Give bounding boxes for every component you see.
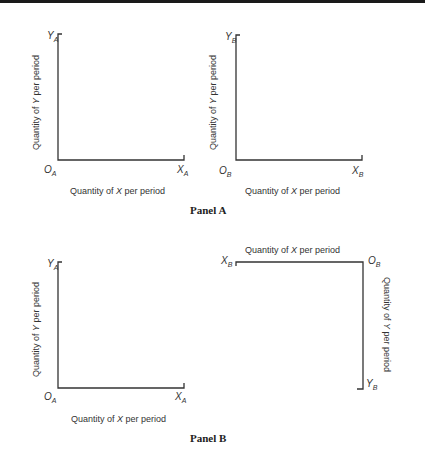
origin-label: OB: [368, 255, 380, 268]
y-end-label: YB: [366, 378, 377, 391]
panel-b-title: Panel B: [190, 432, 226, 444]
x-end-label: XB: [221, 255, 232, 268]
x-axis-title: Quantity of X per period: [245, 245, 340, 255]
panel-b-diagram-b-axes: [0, 0, 425, 467]
y-axis-title: Quantity of Y per period: [382, 277, 392, 372]
